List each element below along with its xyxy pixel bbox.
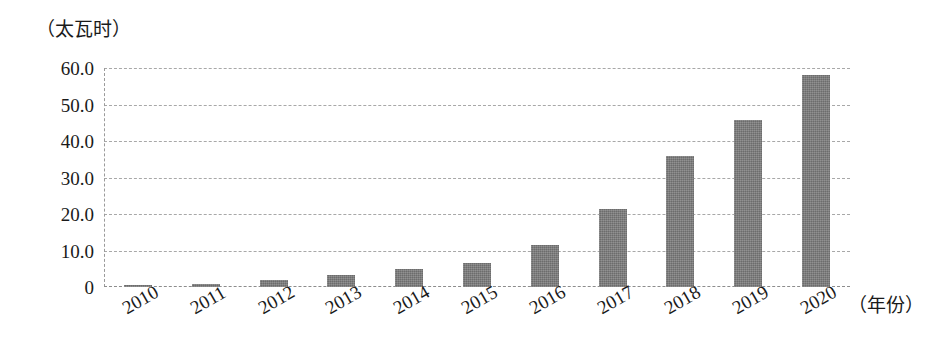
x-axis-tick-label: 2011 bbox=[187, 282, 229, 317]
y-axis-tick-label: 60.0 bbox=[30, 59, 94, 78]
x-axis-unit-label: （年份） bbox=[848, 296, 924, 315]
y-axis-tick-label-group: 010.020.030.040.050.060.0 bbox=[30, 68, 94, 287]
bar-chart: （太瓦时） 010.020.030.040.050.060.0 20102011… bbox=[0, 0, 929, 360]
x-axis-tick-label: 2018 bbox=[661, 282, 703, 317]
bar bbox=[734, 120, 762, 287]
x-axis-tick-label: 2017 bbox=[594, 282, 636, 317]
y-axis-unit-label: （太瓦时） bbox=[36, 20, 131, 39]
y-axis-tick-label: 0 bbox=[30, 278, 94, 297]
plot-area bbox=[104, 68, 850, 287]
x-axis-tick-label: 2014 bbox=[390, 282, 432, 317]
bar bbox=[802, 75, 830, 287]
y-axis-tick-label: 30.0 bbox=[30, 169, 94, 188]
x-axis-tick-label: 2020 bbox=[797, 282, 839, 317]
y-axis-line bbox=[104, 68, 105, 287]
y-axis-tick-label: 40.0 bbox=[30, 132, 94, 151]
x-axis-tick-label: 2016 bbox=[526, 282, 568, 317]
y-axis-tick-label: 10.0 bbox=[30, 242, 94, 261]
x-axis-tick-label: 2015 bbox=[458, 282, 500, 317]
y-axis-tick-label: 50.0 bbox=[30, 96, 94, 115]
y-axis-tick-label: 20.0 bbox=[30, 205, 94, 224]
x-axis-tick-label: 2013 bbox=[322, 282, 364, 317]
bar bbox=[531, 245, 559, 287]
x-axis-tick-label-group: 2010201120122013201420152016201720182019… bbox=[104, 287, 850, 347]
x-axis-tick-label: 2012 bbox=[255, 282, 297, 317]
bar bbox=[666, 156, 694, 287]
x-axis-tick-label: 2010 bbox=[119, 282, 161, 317]
bar bbox=[599, 209, 627, 287]
gridline bbox=[104, 105, 850, 106]
x-axis-tick-label: 2019 bbox=[729, 282, 771, 317]
gridline bbox=[104, 68, 850, 69]
